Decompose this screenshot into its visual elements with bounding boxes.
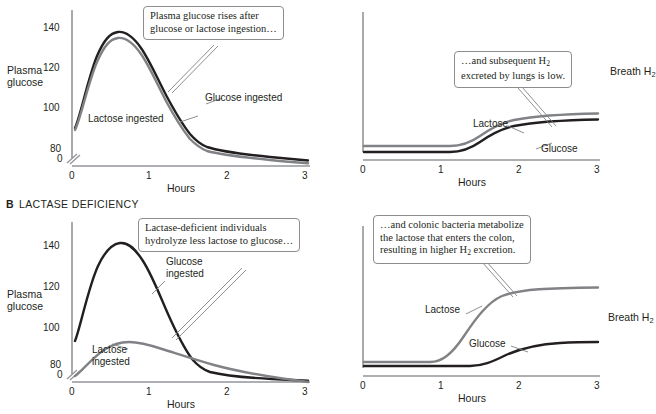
x-axis-title-hours: Hours	[458, 176, 486, 188]
callout-line-2: glucose or lactose ingestion…	[150, 23, 277, 36]
curve-label-lactose-line1: Lactose	[92, 344, 130, 356]
lactose-label-leader	[508, 126, 524, 133]
curve-label-glucose: Glucose	[541, 143, 578, 155]
panel-a-breath-h2: 0 1 2 3 Hours Breath H2 Lactose Glucose …	[330, 0, 648, 196]
y-tick-0: 0	[57, 369, 63, 380]
curve-label-lactose: Lactose	[425, 304, 460, 316]
breath-h2-label-sub: 2	[649, 316, 653, 325]
callout-line-1: Lactase-deficient individuals	[145, 222, 293, 235]
callout-line-3-pre: resulting in higher H	[380, 244, 467, 255]
y-axis-title-line1: Plasma	[7, 64, 43, 76]
callout-a-plasma-glucose: Plasma glucose rises after glucose or la…	[143, 6, 284, 40]
x-tick-2: 2	[224, 170, 230, 181]
x-tick-1: 1	[146, 170, 152, 181]
curve-lactose	[364, 288, 598, 363]
x-tick-3: 3	[302, 170, 308, 181]
curve-label-glucose-line1: Glucose	[166, 256, 204, 268]
callout-line-3: resulting in higher H2 excretion.	[380, 244, 524, 259]
x-tick-3: 3	[594, 380, 600, 391]
x-tick-1: 1	[146, 386, 152, 397]
curve-label-lactose-ingested: Lactose ingested	[92, 344, 130, 367]
y-tick-140: 140	[43, 240, 60, 251]
axis-break-icon	[67, 154, 80, 164]
x-tick-1: 1	[438, 164, 444, 175]
callout-line-2: hydrolyze less lactose to glucose…	[145, 235, 293, 248]
curve-label-lactose-ingested: Lactose ingested	[88, 113, 164, 125]
curve-label-glucose-ingested: Glucose ingested	[166, 256, 204, 279]
y-tick-0: 0	[57, 153, 63, 164]
curve-label-glucose-line2: ingested	[166, 268, 204, 280]
x-tick-3: 3	[594, 164, 600, 175]
callout-line-1: …and colonic bacteria metabolize	[380, 219, 524, 232]
x-tick-0: 0	[69, 386, 75, 397]
x-tick-2: 2	[224, 386, 230, 397]
breath-h2-label-sub: 2	[651, 70, 655, 79]
curve-label-glucose: Glucose	[469, 338, 506, 350]
callout-b-breath-h2: …and colonic bacteria metabolize the lac…	[373, 215, 531, 264]
callout-b-plasma-glucose: Lactase-deficient individuals hydrolyze …	[138, 218, 300, 252]
x-tick-0: 0	[360, 380, 366, 391]
y-tick-140: 140	[43, 22, 60, 33]
panel-a-plasma-glucose: Plasma glucose 140 120 100 80 0 0 1 2 3 …	[0, 0, 330, 196]
x-tick-0: 0	[69, 170, 75, 181]
panel-a-breath-h2-plot	[330, 0, 648, 196]
curve-label-glucose-ingested: Glucose ingested	[205, 92, 282, 104]
callout-a-breath-h2: …and subsequent H2 excreted by lungs is …	[454, 51, 572, 88]
callout-line-1-text: …and subsequent H	[461, 55, 546, 66]
x-axis-title-hours: Hours	[458, 392, 486, 404]
breath-h2-axis-label: Breath H2	[608, 311, 654, 325]
callout-line-2: excreted by lungs is low.	[461, 70, 565, 83]
x-tick-0: 0	[360, 164, 366, 175]
x-tick-3: 3	[302, 386, 308, 397]
x-tick-2: 2	[516, 164, 522, 175]
y-axis-title-plasma-glucose: Plasma glucose	[7, 288, 43, 312]
breath-h2-axis-label: Breath H2	[610, 65, 656, 79]
y-tick-100: 100	[43, 102, 60, 113]
lactose-label-leader	[180, 116, 198, 122]
callout-line-3-post: excretion.	[471, 244, 515, 255]
x-tick-2: 2	[516, 380, 522, 391]
y-tick-120: 120	[43, 281, 60, 292]
y-axis-title-line2: glucose	[7, 76, 43, 88]
section-b-title: LACTASE DEFICIENCY	[19, 198, 139, 210]
curve-label-lactose: Lactose	[473, 118, 508, 130]
y-tick-120: 120	[43, 62, 60, 73]
curve-label-lactose-line2: ingested	[92, 356, 130, 368]
x-axis-title-hours: Hours	[167, 182, 195, 194]
callout-line-1: Plasma glucose rises after	[150, 10, 277, 23]
callout-line-2: the lactose that enters the colon,	[380, 232, 524, 245]
y-tick-100: 100	[43, 322, 60, 333]
y-axis-title-plasma-glucose: Plasma glucose	[7, 64, 43, 88]
y-axis-title-line2: glucose	[7, 300, 43, 312]
callout-leader-line	[168, 45, 218, 93]
callout-leader-line	[482, 261, 517, 297]
callout-line-1-sub: 2	[546, 59, 550, 68]
x-axis-title-hours: Hours	[167, 398, 195, 410]
section-b-letter: B	[6, 198, 14, 210]
callout-line-1: …and subsequent H2	[461, 55, 565, 70]
breath-h2-label-text: Breath H	[610, 65, 651, 77]
y-axis-title-line1: Plasma	[7, 288, 43, 300]
breath-h2-label-text: Breath H	[608, 311, 649, 323]
panel-b-breath-h2: 0 1 2 3 Hours Breath H2 Lactose Glucose …	[330, 196, 648, 414]
x-tick-1: 1	[438, 380, 444, 391]
panel-b-plasma-glucose: BLACTASE DEFICIENCY Plasma glucose 140 1…	[0, 196, 330, 414]
section-b-label: BLACTASE DEFICIENCY	[6, 198, 139, 210]
